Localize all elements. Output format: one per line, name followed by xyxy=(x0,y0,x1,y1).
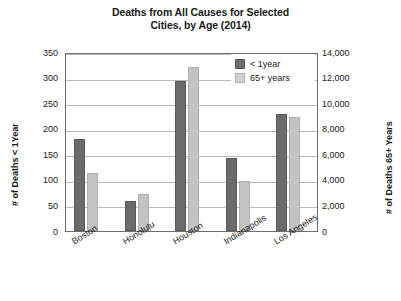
y-right-tick-6000: 6,000 xyxy=(322,151,368,160)
chart-container: Deaths from All Causes for Selected Citi… xyxy=(0,0,401,301)
y-left-tick-0: 0 xyxy=(18,228,58,237)
bar-honolulu-series-0 xyxy=(125,201,136,231)
legend-label-series-1: 65+ years xyxy=(250,74,290,83)
chart-title-line-1: Deaths from All Causes for Selected xyxy=(0,6,401,19)
legend-item-under-1-year: < 1year xyxy=(235,57,311,71)
bar-los-angeles-series-1 xyxy=(289,117,300,231)
y-axis-right-title: # of Deaths 65+ Years xyxy=(384,121,394,214)
bar-boston-series-0 xyxy=(74,139,85,231)
legend-swatch-icon-series-0 xyxy=(235,59,245,69)
y-left-tick-300: 300 xyxy=(18,74,58,83)
y-right-tick-10000: 10,000 xyxy=(322,100,368,109)
y-right-tick-2000: 2,000 xyxy=(322,202,368,211)
y-right-tick-4000: 4,000 xyxy=(322,176,368,185)
chart-title-line-2: Cities, by Age (2014) xyxy=(0,19,401,32)
bar-houston-series-0 xyxy=(175,81,186,231)
y-right-tick-14000: 14,000 xyxy=(322,49,368,58)
bar-group xyxy=(66,54,117,231)
y-right-tick-12000: 12,000 xyxy=(322,74,368,83)
y-left-tick-350: 350 xyxy=(18,49,58,58)
bar-group xyxy=(117,54,168,231)
y-left-tick-200: 200 xyxy=(18,125,58,134)
bar-indianapolis-series-0 xyxy=(226,158,237,231)
y-axis-left-title: # of Deaths < 1Year xyxy=(10,123,20,206)
bar-los-angeles-series-0 xyxy=(276,114,287,231)
y-right-tick-0: 0 xyxy=(322,228,368,237)
legend-item-65-plus-years: 65+ years xyxy=(235,71,311,85)
bar-houston-series-1 xyxy=(188,67,199,231)
y-left-tick-50: 50 xyxy=(18,202,58,211)
y-right-tick-8000: 8,000 xyxy=(322,125,368,134)
bar-group xyxy=(167,54,218,231)
legend-label-series-0: < 1year xyxy=(250,60,280,69)
y-left-tick-250: 250 xyxy=(18,100,58,109)
legend-swatch-icon-series-1 xyxy=(235,73,245,83)
y-left-tick-100: 100 xyxy=(18,176,58,185)
chart-title: Deaths from All Causes for Selected Citi… xyxy=(0,6,401,32)
y-left-tick-150: 150 xyxy=(18,151,58,160)
chart-legend: < 1year 65+ years xyxy=(231,54,315,89)
